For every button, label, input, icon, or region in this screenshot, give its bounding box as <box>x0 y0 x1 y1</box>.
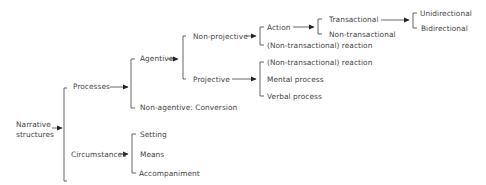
node-np-reaction: (Non-transactional) reaction <box>267 41 372 50</box>
node-non-agentive: Non-agentive: Conversion <box>140 103 237 112</box>
node-non-projective: Non-projective <box>193 32 248 41</box>
node-processes: Processes <box>73 82 110 91</box>
node-setting: Setting <box>140 130 167 139</box>
node-mental-process: Mental process <box>267 75 324 84</box>
node-circumstances: Circumstances <box>71 150 126 159</box>
node-p-reaction: (Non-transactional) reaction <box>267 58 372 67</box>
node-means: Means <box>140 150 164 159</box>
node-accompaniment: Accompaniment <box>139 169 200 178</box>
narrative-structures-diagram: Narrative structures Processes Circumsta… <box>0 0 486 185</box>
node-action: Action <box>267 23 290 32</box>
root-label-line2: structures <box>16 130 54 139</box>
node-verbal-process: Verbal process <box>267 92 322 101</box>
node-non-transactional: Non-transactional <box>329 30 396 39</box>
node-bidirectional: Bidirectional <box>421 24 468 33</box>
node-unidirectional: Unidirectional <box>420 9 472 18</box>
root-label-line1: Narrative <box>16 120 51 129</box>
node-projective: Projective <box>193 75 230 84</box>
node-transactional: Transactional <box>329 15 379 24</box>
node-agentive: Agentive <box>140 54 173 63</box>
